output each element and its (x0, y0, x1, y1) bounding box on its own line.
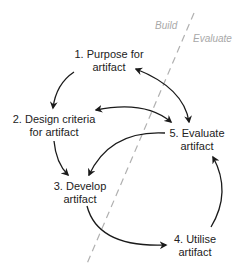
arrow-design-to-develop (54, 141, 68, 175)
node-purpose: 1. Purpose for artifact (64, 48, 154, 74)
node-design-line1: 2. Design criteria (6, 113, 102, 126)
node-utilise: 4. Utilise artifact (164, 233, 226, 259)
node-develop-line1: 3. Develop (48, 180, 112, 193)
node-develop-line2: artifact (48, 193, 112, 206)
arrow-utilise-to-evaluate (211, 157, 222, 227)
node-develop: 3. Develop artifact (48, 180, 112, 206)
node-evaluate-line1: 5. Evaluate (162, 127, 232, 140)
arrow-purpose-to-design (53, 72, 74, 108)
node-evaluate: 5. Evaluate artifact (162, 127, 232, 153)
zone-label-build: Build (155, 20, 177, 31)
node-purpose-line2: artifact (64, 61, 154, 74)
node-purpose-line1: 1. Purpose for (64, 48, 154, 61)
node-utilise-line1: 4. Utilise (164, 233, 226, 246)
node-evaluate-line2: artifact (162, 140, 232, 153)
design-cycle-diagram: Build Evaluate 1. Purpose for artifact 2… (0, 0, 242, 272)
node-design-criteria: 2. Design criteria for artifact (6, 113, 102, 139)
arrow-design-evaluate (96, 107, 171, 122)
zone-label-evaluate: Evaluate (193, 33, 232, 44)
node-utilise-line2: artifact (164, 246, 226, 259)
arrow-purpose-evaluate (136, 69, 189, 122)
arrow-develop-to-utilise (87, 206, 166, 245)
node-design-line2: for artifact (6, 126, 102, 139)
